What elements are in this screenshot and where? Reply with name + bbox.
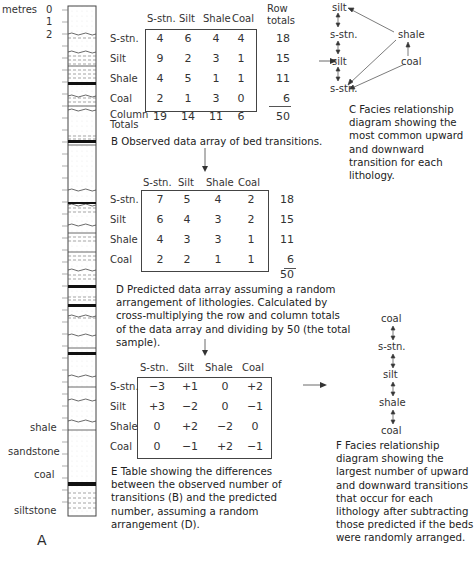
b-row-header-silt: Silt [110, 53, 126, 64]
d-row-total: 15 [272, 213, 294, 226]
b-row-header-coal: Coal [110, 93, 132, 104]
e-row-header-sstn: S-stn. [110, 381, 139, 392]
b-column-totals-label: Column Totals [110, 110, 146, 130]
b-row-totals-header: Row totals [267, 3, 307, 27]
e-cell: −3 [142, 380, 172, 393]
arrow-e-to-f [302, 380, 330, 390]
b-grand-total: 50 [268, 110, 290, 123]
d-row-header-silt: Silt [110, 214, 126, 225]
b-sum-line [269, 106, 291, 107]
panel-a-letter: A [37, 532, 47, 548]
e-caption: E Table showing the differences between … [111, 465, 301, 531]
e-cell: +2 [175, 420, 205, 433]
d-caption: D Predicted data array assuming a random… [116, 283, 352, 349]
d-cell: 1 [236, 253, 266, 266]
b-col-header-silt: Silt [179, 13, 195, 24]
e-cell: +2 [240, 380, 270, 393]
b-cell: 4 [145, 32, 175, 45]
b-row-total: 15 [268, 52, 290, 65]
b-cell: 5 [173, 72, 203, 85]
b-col-header-sstn: S-stn. [147, 13, 176, 24]
e-col-header-coal: Coal [242, 362, 264, 373]
b-col-total: 6 [226, 110, 256, 123]
b-cell: 1 [173, 92, 203, 105]
b-col-total: 14 [173, 110, 203, 123]
scale-tick-2: 2 [46, 29, 52, 40]
legend-coal: coal [34, 469, 55, 480]
d-grand-total: 50 [272, 268, 294, 281]
c-caption: C Facies relationship diagram showing th… [349, 103, 474, 182]
b-cell: 1 [226, 52, 256, 65]
d-cell: 3 [203, 213, 233, 226]
e-cell: 0 [210, 400, 240, 413]
e-cell: 0 [210, 380, 240, 393]
e-cell: −2 [210, 420, 240, 433]
c-arrows [328, 0, 438, 100]
legend-siltstone: siltstone [14, 505, 56, 516]
log-column-graphic [56, 0, 102, 520]
d-cell: 7 [145, 193, 175, 206]
legend-sandstone: sandstone [8, 446, 60, 457]
d-cell: 2 [172, 253, 202, 266]
b-row-total: 18 [268, 32, 290, 45]
b-cell: 0 [226, 92, 256, 105]
e-row-header-shale: Shale [110, 421, 138, 432]
b-col-header-shale: Shale [203, 13, 231, 24]
e-cell: 0 [142, 440, 172, 453]
e-col-header-silt: Silt [178, 362, 194, 373]
e-row-header-coal: Coal [110, 441, 132, 452]
legend-shale: shale [30, 422, 57, 433]
e-cell: +2 [210, 440, 240, 453]
f-arrows [386, 324, 400, 428]
e-cell: 0 [240, 420, 270, 433]
scale-tick-0: 0 [46, 4, 52, 15]
b-cell: 4 [145, 72, 175, 85]
d-cell: 2 [236, 213, 266, 226]
e-cell: +3 [142, 400, 172, 413]
d-cell: 1 [236, 233, 266, 246]
f-caption: F Facies relationship diagram showing th… [336, 439, 474, 545]
f-node-coal-top: coal [381, 313, 402, 324]
d-col-header-sstn: S-stn. [143, 177, 172, 188]
d-cell: 2 [236, 193, 266, 206]
d-row-header-coal: Coal [110, 254, 132, 265]
b-cell: 1 [226, 72, 256, 85]
b-cell: 6 [173, 32, 203, 45]
d-cell: 4 [145, 233, 175, 246]
b-cell: 4 [226, 32, 256, 45]
b-row-header-shale: Shale [110, 73, 138, 84]
d-cell: 4 [172, 213, 202, 226]
d-row-total: 18 [272, 193, 294, 206]
e-cell: −1 [240, 400, 270, 413]
d-cell: 5 [172, 193, 202, 206]
e-col-header-sstn: S-stn. [140, 362, 169, 373]
e-cell: −1 [240, 440, 270, 453]
b-cell: 2 [173, 52, 203, 65]
b-caption: B Observed data array of bed transitions… [111, 135, 322, 148]
e-col-header-shale: Shale [205, 362, 233, 373]
e-row-header-silt: Silt [110, 401, 126, 412]
arrow-d-to-e [200, 338, 210, 358]
d-row-header-shale: Shale [110, 234, 138, 245]
d-col-header-coal: Coal [238, 177, 260, 188]
e-cell: 0 [142, 420, 172, 433]
b-col-total: 19 [145, 110, 175, 123]
d-col-header-silt: Silt [178, 177, 194, 188]
arrow-b-to-d [200, 146, 210, 174]
d-cell: 4 [203, 193, 233, 206]
e-cell: −1 [175, 440, 205, 453]
d-cell: 2 [145, 253, 175, 266]
d-row-header-sstn: S-stn. [110, 194, 139, 205]
d-col-header-shale: Shale [206, 177, 234, 188]
b-row-total: 11 [268, 72, 290, 85]
scale-title: metres [2, 4, 37, 15]
d-cell: 3 [203, 233, 233, 246]
d-cell: 3 [172, 233, 202, 246]
d-cell: 6 [145, 213, 175, 226]
d-row-total: 6 [272, 253, 294, 266]
d-row-total: 11 [272, 233, 294, 246]
b-cell: 2 [145, 92, 175, 105]
e-cell: +1 [175, 380, 205, 393]
b-cell: 9 [145, 52, 175, 65]
b-row-header-sstn: S-stn. [110, 33, 139, 44]
